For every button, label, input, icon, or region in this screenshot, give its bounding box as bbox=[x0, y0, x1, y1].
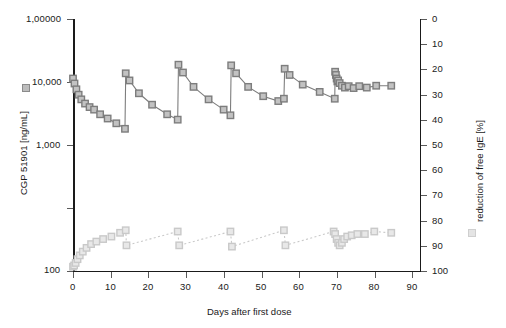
data-point-marker bbox=[300, 81, 306, 87]
data-point-marker bbox=[282, 242, 288, 248]
data-point-marker bbox=[220, 106, 226, 112]
data-point-marker bbox=[100, 236, 106, 242]
data-point-marker bbox=[126, 77, 132, 83]
data-point-marker bbox=[108, 233, 114, 239]
data-point-marker bbox=[228, 62, 234, 68]
data-point-marker bbox=[123, 70, 129, 76]
chart-container: 1,00000 10,000 1,000 100 0 10 20 30 40 5… bbox=[0, 0, 506, 328]
data-point-marker bbox=[205, 96, 211, 102]
data-point-marker bbox=[227, 228, 233, 234]
data-point-marker bbox=[149, 102, 155, 108]
data-point-marker bbox=[316, 89, 322, 95]
data-point-marker bbox=[373, 83, 379, 89]
data-point-marker bbox=[233, 70, 239, 76]
data-point-marker bbox=[104, 115, 110, 121]
data-point-marker bbox=[354, 231, 360, 237]
data-point-marker bbox=[97, 111, 103, 117]
data-point-marker bbox=[388, 83, 394, 89]
series-ige-reduction-markers bbox=[70, 227, 395, 270]
plot-area bbox=[0, 0, 506, 328]
data-point-marker bbox=[175, 62, 181, 68]
data-point-marker bbox=[260, 93, 266, 99]
data-point-marker bbox=[123, 227, 129, 233]
data-point-marker bbox=[332, 96, 338, 102]
data-point-marker bbox=[362, 231, 368, 237]
data-point-marker bbox=[356, 83, 362, 89]
series-cgp-51901-markers bbox=[70, 62, 395, 133]
data-point-marker bbox=[164, 111, 170, 117]
data-point-marker bbox=[190, 84, 196, 90]
data-point-marker bbox=[227, 112, 233, 118]
data-point-marker bbox=[122, 126, 128, 132]
data-point-marker bbox=[281, 66, 287, 72]
data-point-marker bbox=[286, 72, 292, 78]
data-point-marker bbox=[136, 90, 142, 96]
data-point-marker bbox=[371, 228, 377, 234]
data-point-marker bbox=[175, 116, 181, 122]
data-point-marker bbox=[176, 242, 182, 248]
data-point-marker bbox=[113, 120, 119, 126]
data-point-marker bbox=[281, 227, 287, 233]
data-point-marker bbox=[388, 230, 394, 236]
data-point-marker bbox=[123, 242, 129, 248]
data-point-marker bbox=[175, 228, 181, 234]
data-point-marker bbox=[180, 69, 186, 75]
data-point-marker bbox=[281, 96, 287, 102]
data-point-marker bbox=[93, 238, 99, 244]
data-point-marker bbox=[245, 84, 251, 90]
data-point-marker bbox=[229, 243, 235, 249]
data-point-marker bbox=[364, 84, 370, 90]
